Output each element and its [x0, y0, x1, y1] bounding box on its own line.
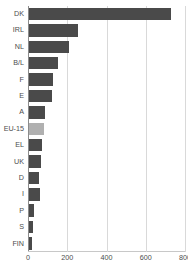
x-tick-label-0: 0 [26, 253, 30, 262]
x-tick-label-800: 800 [179, 253, 188, 262]
bar-row [28, 22, 185, 38]
bar-dk [29, 8, 171, 20]
gridline-800 [185, 6, 186, 252]
bar-d [29, 172, 39, 184]
bar-row [28, 121, 185, 137]
bar-e [29, 90, 52, 102]
bar-row [28, 72, 185, 88]
bar-row [28, 6, 185, 22]
bar-row [28, 235, 185, 251]
bar-series [28, 6, 185, 252]
category-label-eu-15: EU-15 [4, 121, 24, 137]
category-label-irl: IRL [13, 22, 24, 38]
category-label-b-l: B/L [13, 55, 24, 71]
bar-row [28, 154, 185, 170]
bar-row [28, 219, 185, 235]
x-tick-label-600: 600 [140, 253, 152, 262]
plot-area [28, 6, 185, 252]
bar-b-l [29, 57, 58, 69]
bar-row [28, 137, 185, 153]
category-axis-labels: DKIRLNLB/LFEAEU-15ELUKDIPSFIN [0, 6, 26, 252]
bar-irl [29, 24, 78, 36]
bar-row [28, 88, 185, 104]
bar-row [28, 186, 185, 202]
bar-uk [29, 155, 41, 167]
bar-f [29, 73, 53, 85]
category-label-s: S [19, 219, 24, 235]
bar-row [28, 203, 185, 219]
x-axis-tick-labels: 0200400600800 [0, 253, 188, 269]
category-label-f: F [20, 72, 24, 88]
category-label-el: EL [15, 137, 24, 153]
category-label-i: I [22, 186, 24, 202]
bar-p [29, 204, 34, 216]
category-label-e: E [19, 88, 24, 104]
category-label-dk: DK [14, 6, 24, 22]
bar-chart: DKIRLNLB/LFEAEU-15ELUKDIPSFIN 0200400600… [0, 0, 188, 274]
bar-row [28, 170, 185, 186]
category-label-fin: FIN [12, 236, 24, 252]
bar-el [29, 139, 42, 151]
category-label-d: D [19, 170, 24, 186]
bar-a [29, 106, 45, 118]
bar-row [28, 39, 185, 55]
x-tick-label-200: 200 [61, 253, 73, 262]
category-label-uk: UK [14, 154, 24, 170]
x-tick-label-400: 400 [101, 253, 113, 262]
category-label-p: P [19, 203, 24, 219]
bar-i [29, 188, 40, 200]
category-label-nl: NL [15, 39, 24, 55]
bar-row [28, 104, 185, 120]
bar-fin [29, 237, 32, 249]
category-label-a: A [19, 104, 24, 120]
bar-row [28, 55, 185, 71]
bar-eu-15 [29, 123, 44, 135]
bar-nl [29, 41, 69, 53]
bar-s [29, 221, 33, 233]
